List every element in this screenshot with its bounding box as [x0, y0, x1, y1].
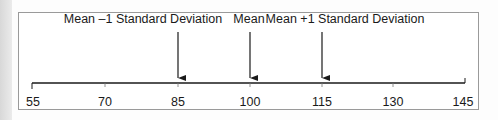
marker-label-mean: Mean [233, 12, 264, 26]
marker-label-plus-1sd: Mean +1 Standard Deviation [266, 12, 425, 26]
diagram-page: 55 70 85 100 115 130 145 Mean –1 Standar… [0, 0, 498, 120]
tick-label: 115 [312, 95, 332, 109]
tick-label: 145 [453, 95, 474, 109]
number-line-diagram: 55 70 85 100 115 130 145 Mean –1 Standar… [0, 0, 498, 120]
tick-label: 85 [171, 95, 185, 109]
tick-label: 130 [383, 95, 404, 109]
tick-label: 55 [26, 95, 40, 109]
marker-label-minus-1sd: Mean –1 Standard Deviation [64, 12, 222, 26]
axis-tick-labels: 55 70 85 100 115 130 145 [26, 95, 473, 109]
marker-labels: Mean –1 Standard Deviation Mean Mean +1 … [64, 12, 425, 26]
tick-label: 100 [240, 95, 261, 109]
marker-arrows [178, 32, 322, 78]
tick-label: 70 [98, 95, 112, 109]
